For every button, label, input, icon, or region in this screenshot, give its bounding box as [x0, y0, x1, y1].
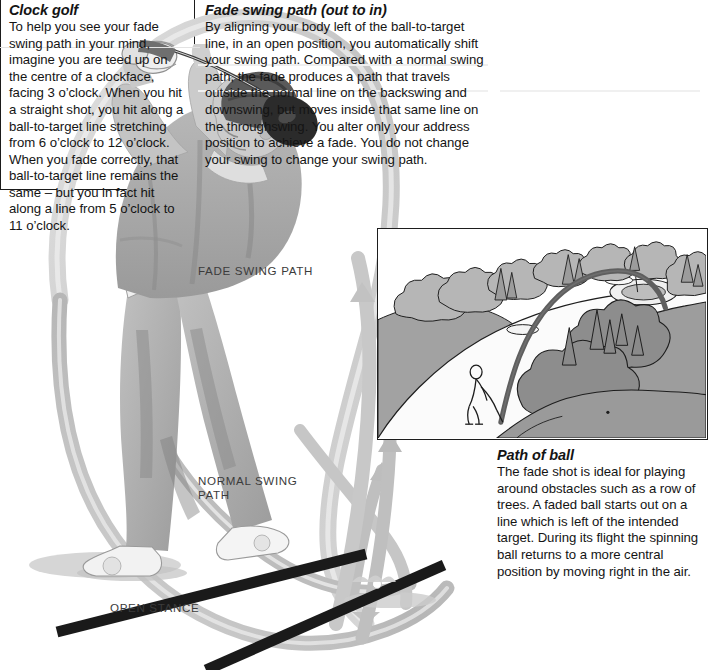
fade-swing-path-textblock: Fade swing path (out to in) By aligning …	[205, 2, 485, 168]
clock-golf-textblock: Clock golf To help you see your fade swi…	[9, 2, 187, 235]
swing-path-ribbon-upright	[300, 430, 406, 604]
golf-ball	[373, 580, 382, 589]
ball-to-target-line	[206, 565, 444, 670]
open-stance-line	[57, 554, 366, 632]
normal-path-right-arm	[362, 432, 402, 638]
ground-shadow	[29, 552, 436, 608]
path-of-ball-title: Path of ball	[497, 447, 705, 463]
scan-artifact	[500, 90, 700, 92]
fade-path-right-arm	[336, 258, 375, 624]
fade-swing-path-body: By aligning your body left of the ball-t…	[205, 19, 485, 168]
clock-golf-box: Clock golf To help you see your fade swi…	[0, 0, 195, 190]
callout-open-stance: OPEN STANCE	[110, 601, 199, 615]
callout-normal-swing-path: NORMAL SWING PATH	[198, 474, 297, 502]
fade-swing-path-title: Fade swing path (out to in)	[205, 2, 485, 18]
golf-course-scene	[378, 229, 706, 438]
illustration-page: Fade swing path (out to in) By aligning …	[0, 0, 711, 670]
path-of-ball-textblock: Path of ball The fade shot is ideal for …	[497, 447, 705, 580]
clock-golf-body: To help you see your fade swing path in …	[9, 19, 187, 234]
callout-fade-swing-path: FADE SWING PATH	[198, 264, 313, 278]
path-of-ball-body: The fade shot is ideal for playing aroun…	[497, 464, 705, 580]
normal-swing-path-ribbon	[148, 418, 410, 591]
clock-golf-title: Clock golf	[9, 2, 187, 18]
golf-course-photo	[377, 228, 708, 440]
